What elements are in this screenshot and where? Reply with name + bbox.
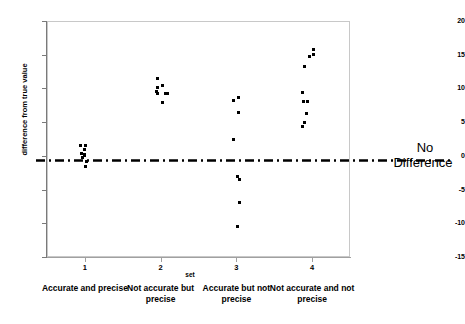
y-tick-mark	[42, 55, 46, 56]
data-point	[161, 101, 164, 104]
y-tick-mark	[42, 122, 46, 123]
data-point	[308, 55, 311, 58]
data-point	[302, 100, 305, 103]
data-point	[156, 92, 159, 95]
data-point	[166, 92, 169, 95]
y-axis-title: difference from true value	[20, 40, 29, 180]
data-point	[237, 111, 240, 114]
x-tick-mark	[85, 258, 86, 262]
y-tick-mark	[42, 257, 46, 258]
data-point	[232, 138, 235, 141]
data-point	[84, 144, 87, 147]
data-point	[303, 121, 306, 124]
data-point	[236, 225, 239, 228]
data-point	[301, 91, 304, 94]
data-point	[156, 77, 159, 80]
x-axis-line	[47, 257, 351, 258]
x-axis-title: set	[170, 271, 210, 279]
y-tick-label: -15	[425, 253, 465, 261]
y-tick-mark	[42, 190, 46, 191]
data-point	[303, 65, 306, 68]
zero-reference-line	[36, 159, 450, 162]
data-point	[79, 144, 82, 147]
y-tick-mark	[42, 88, 46, 89]
y-tick-label: 15	[425, 51, 465, 59]
y-tick-mark	[42, 223, 46, 224]
data-point	[301, 125, 304, 128]
x-tick-mark	[312, 258, 313, 262]
no-difference-annotation: No Difference	[395, 140, 465, 170]
data-point	[237, 96, 240, 99]
x-tick-label: 3	[206, 263, 266, 272]
data-point	[306, 100, 309, 103]
data-point	[238, 178, 241, 181]
data-point	[238, 201, 241, 204]
y-tick-mark	[42, 156, 46, 157]
x-tick-mark	[161, 258, 162, 262]
x-category-label: Not accurate and not precise	[264, 283, 360, 305]
no-difference-line-1: No	[395, 140, 455, 155]
data-points-layer	[47, 21, 350, 257]
data-point	[83, 148, 86, 151]
x-tick-label: 1	[55, 263, 115, 272]
y-tick-label: 5	[425, 118, 465, 126]
y-tick-mark	[42, 21, 46, 22]
x-tick-label: 4	[282, 263, 342, 272]
x-tick-mark	[236, 258, 237, 262]
data-point	[161, 84, 164, 87]
data-point	[312, 48, 315, 51]
y-tick-label: -5	[425, 186, 465, 194]
scatter-plot-figure: 20151050-5-10-15 difference from true va…	[0, 0, 465, 324]
y-tick-label: 10	[425, 84, 465, 92]
y-tick-label: 20	[425, 17, 465, 25]
no-difference-line-2: Difference	[389, 155, 457, 170]
y-tick-label: -10	[425, 219, 465, 227]
data-point	[305, 112, 308, 115]
data-point	[84, 165, 87, 168]
data-point	[312, 53, 315, 56]
data-point	[232, 99, 235, 102]
data-point	[156, 86, 159, 89]
